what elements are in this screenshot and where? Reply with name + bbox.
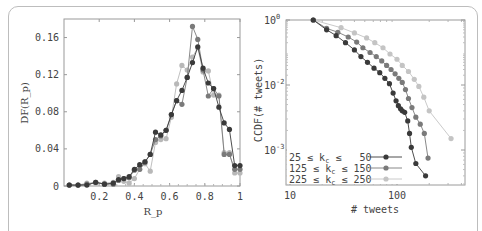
left-data-point <box>216 105 221 110</box>
left-data-point <box>132 167 137 172</box>
left-data-point <box>185 75 190 80</box>
left-xlabel: R_p <box>144 206 163 218</box>
right-data-point <box>423 173 428 178</box>
right-ytick-base: 10 <box>264 145 276 156</box>
legend-lower-bound: 125 <box>289 163 307 174</box>
right-data-point <box>382 76 387 81</box>
right-data-point <box>407 131 412 136</box>
left-data-point <box>142 159 147 164</box>
right-data-point <box>372 40 377 45</box>
left-data-point <box>174 98 179 103</box>
left-ytick-label: 0.08 <box>35 106 59 117</box>
legend-leq: ≤ <box>307 174 325 185</box>
legend-marker <box>383 154 388 159</box>
left-ylabel: DF(R_p) <box>19 82 31 124</box>
legend-marker <box>383 165 388 170</box>
legend-upper-bound: 150 <box>353 163 371 174</box>
right-data-point <box>393 98 398 103</box>
right-data-point <box>421 95 426 100</box>
left-ytick-label: 0.16 <box>35 32 59 43</box>
right-data-point <box>352 47 357 52</box>
right-ytick-label: 100 <box>264 13 280 26</box>
right-data-point <box>402 110 407 115</box>
right-data-point <box>448 136 453 141</box>
right-data-point <box>334 33 339 38</box>
right-data-point <box>311 17 316 22</box>
left-data-point <box>148 169 153 174</box>
left-data-point <box>127 181 132 186</box>
right-data-point <box>422 131 427 136</box>
legend-leq: ≤ <box>329 152 347 163</box>
right-ytick-exponent: -2 <box>276 78 284 86</box>
right-ytick-exponent: -3 <box>276 143 284 151</box>
right-data-point <box>380 45 385 50</box>
left-data-point <box>190 60 195 65</box>
right-data-point <box>346 34 351 39</box>
right-data-point <box>377 70 382 75</box>
left-data-point <box>179 88 184 93</box>
legend-upper-bound: 50 <box>347 152 371 163</box>
right-data-point <box>371 66 376 71</box>
right-ytick-label: 10-3 <box>264 143 284 156</box>
left-ytick-label: 0.12 <box>35 69 59 80</box>
left-data-point <box>227 127 232 132</box>
right-data-point <box>365 60 370 65</box>
right-data-point <box>354 39 359 44</box>
legend-marker <box>383 176 388 181</box>
left-data-point <box>75 182 80 187</box>
left-data-point <box>67 182 72 187</box>
left-xtick-label: 1 <box>237 191 243 202</box>
right-xtick-label: 100 <box>388 190 406 201</box>
left-data-point <box>222 120 227 125</box>
left-ylabel-text: DF(R_p) <box>19 82 31 124</box>
right-data-point <box>403 87 408 92</box>
left-data-point <box>153 130 158 135</box>
right-data-point <box>394 57 399 62</box>
left-data-point <box>127 174 132 179</box>
left-data-point <box>206 80 211 85</box>
left-data-point <box>137 167 142 172</box>
left-data-point <box>93 180 98 185</box>
right-data-point <box>406 96 411 101</box>
left-data-point <box>174 81 179 86</box>
legend-upper-bound: 250 <box>353 174 371 185</box>
right-data-point <box>388 67 393 72</box>
legend-leq: ≤ <box>335 174 353 185</box>
right-plot: 1010010010-210-3 25 ≤ kc ≤ 50125 ≤ kc ≤ … <box>253 13 465 215</box>
legend-leq: ≤ <box>301 152 319 163</box>
left-data-point <box>132 176 137 181</box>
right-data-point <box>413 161 418 166</box>
left-data-point <box>222 152 227 157</box>
left-ytick-label: 0 <box>53 181 59 192</box>
right-data-point <box>418 122 423 127</box>
left-data-point <box>137 162 142 167</box>
left-ytick-label: 0.04 <box>35 143 59 154</box>
left-data-point <box>121 176 126 181</box>
right-ylabel-text: CCDF(# tweets) <box>253 58 264 142</box>
right-data-point <box>427 108 432 113</box>
left-data-point <box>116 177 121 182</box>
left-data-point <box>179 102 184 107</box>
left-xtick-label: 0.8 <box>196 191 214 202</box>
right-ytick-base: 10 <box>264 15 276 26</box>
left-data-point <box>227 152 232 157</box>
right-data-point <box>379 58 384 63</box>
right-data-point <box>324 27 329 32</box>
left-data-point <box>211 86 216 91</box>
right-data-point <box>393 71 398 76</box>
right-data-point <box>400 63 405 68</box>
left-data-point <box>102 182 107 187</box>
legend-lower-bound: 25 <box>289 152 301 163</box>
right-data-point <box>364 35 369 40</box>
right-data-point <box>413 115 418 120</box>
left-data-point <box>195 44 200 49</box>
left-data-point <box>84 182 89 187</box>
left-data-point <box>216 93 221 98</box>
right-data-point <box>412 77 417 82</box>
left-data-point <box>163 136 168 141</box>
right-ytick-base: 10 <box>264 80 276 91</box>
right-data-point <box>367 50 372 55</box>
left-data-point <box>206 68 211 73</box>
left-xtick-label: 0.4 <box>125 191 143 202</box>
right-data-point <box>416 84 421 89</box>
